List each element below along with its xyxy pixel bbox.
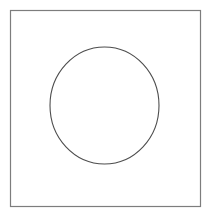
figure-svg [0,0,211,217]
circle-outline [50,47,159,164]
figure-canvas: Circle inscribed in a square outline [0,0,211,217]
square-outline [11,11,201,207]
